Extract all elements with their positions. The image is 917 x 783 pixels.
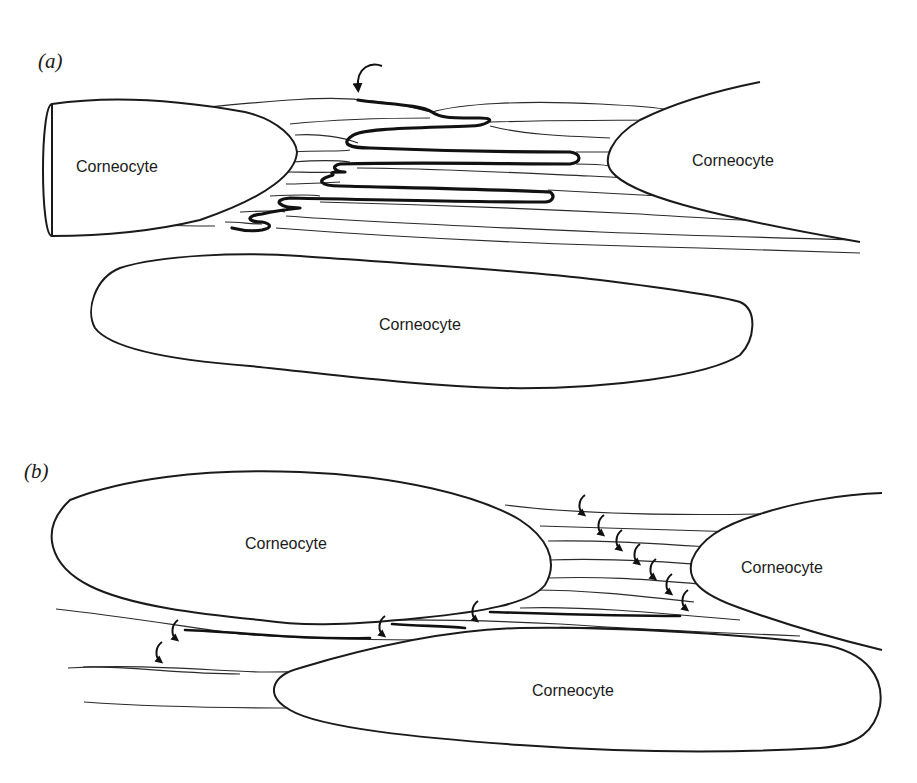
corneocyte-diagram: (a) bbox=[0, 0, 917, 783]
panel-b: (b) Corneocyte Corneo bbox=[24, 459, 882, 752]
corneocyte-b-top-left-label: Corneocyte bbox=[245, 535, 327, 552]
panel-a: (a) bbox=[38, 49, 917, 388]
corneocyte-b-bottom-label: Corneocyte bbox=[532, 682, 614, 699]
curved-arrow-icon bbox=[598, 515, 604, 534]
curved-arrow-icon bbox=[172, 620, 178, 639]
corneocyte-a-bottom-label: Corneocyte bbox=[379, 316, 461, 333]
curved-arrow-icon bbox=[616, 530, 622, 549]
curved-arrow-icon bbox=[358, 65, 382, 88]
panel-a-label: (a) bbox=[38, 49, 63, 73]
curved-arrow-icon bbox=[682, 590, 688, 609]
corneocyte-a-left-label: Corneocyte bbox=[76, 158, 158, 175]
curved-arrow-icon bbox=[156, 642, 162, 661]
curved-arrow-icon bbox=[666, 574, 672, 593]
corneocyte-a-right-label: Corneocyte bbox=[692, 152, 774, 169]
corneocyte-b-right-label: Corneocyte bbox=[741, 559, 823, 576]
panel-b-label: (b) bbox=[24, 459, 49, 483]
